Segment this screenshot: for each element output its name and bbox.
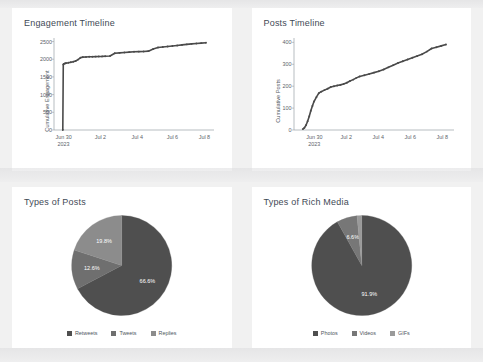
- legend-swatch-icon: [313, 331, 318, 336]
- legend-swatch-icon: [111, 331, 116, 336]
- x-tick-sublabel: 2023: [56, 141, 72, 148]
- legend-item[interactable]: Retweets: [67, 330, 97, 336]
- pie-slice-label: 91.9%: [361, 291, 377, 297]
- x-axis-ticks-posts: Jun 302023Jul 2Jul 4Jul 6Jul 8: [252, 130, 472, 152]
- analytics-dashboard: Engagement Timeline Cumulative Engagemen…: [0, 0, 483, 362]
- pie-area-types-of-posts: 66.6%12.6%19.8%: [12, 207, 232, 324]
- x-tick: Jul 4: [131, 134, 142, 141]
- x-tick: Jun 302023: [56, 134, 72, 148]
- legend-swatch-icon: [352, 331, 357, 336]
- legend-item[interactable]: Tweets: [111, 330, 136, 336]
- x-tick-sublabel: 2023: [306, 141, 322, 148]
- x-tick-label: Jul 2: [341, 134, 352, 141]
- legend-types-of-posts: RetweetsTweetsReplies: [12, 330, 232, 336]
- x-tick-label: Jul 4: [373, 134, 384, 141]
- legend-item[interactable]: Videos: [352, 330, 376, 336]
- chart-title-engagement: Engagement Timeline: [24, 18, 115, 28]
- pie-slice-label: 19.8%: [96, 238, 112, 244]
- pie-slice-label: 66.6%: [140, 278, 156, 284]
- legend-label: Retweets: [75, 330, 97, 336]
- legend-item[interactable]: Replies: [151, 330, 177, 336]
- x-tick: Jun 302023: [306, 134, 322, 148]
- chart-title-posts: Posts Timeline: [264, 18, 325, 28]
- plot-area-posts: Cumulative Posts 400 300 200 100 0 Jun 3…: [252, 30, 472, 171]
- x-tick-label: Jul 6: [167, 134, 178, 141]
- x-tick: Jul 6: [167, 134, 178, 141]
- legend-label: Tweets: [119, 330, 136, 336]
- background-band: [0, 0, 483, 8]
- x-tick-label: Jun 30: [56, 134, 72, 141]
- pie-area-types-of-rich-media: 91.9%6.6%1.52%: [252, 207, 472, 324]
- x-tick: Jul 4: [373, 134, 384, 141]
- legend-item[interactable]: Photos: [313, 330, 338, 336]
- x-axis-ticks-engagement: Jun 302023Jul 2Jul 4Jul 6Jul 8: [12, 130, 232, 152]
- panel-engagement-timeline: Engagement Timeline Cumulative Engagemen…: [12, 8, 232, 171]
- chart-title-types-of-posts: Types of Posts: [24, 197, 86, 207]
- x-tick: Jul 2: [95, 134, 106, 141]
- legend-label: GIFs: [398, 330, 410, 336]
- x-tick-label: Jun 30: [306, 134, 322, 141]
- panel-posts-timeline: Posts Timeline Cumulative Posts 400 300 …: [252, 8, 472, 171]
- legend-item[interactable]: GIFs: [390, 330, 410, 336]
- chart-title-types-of-rich-media: Types of Rich Media: [264, 197, 349, 207]
- x-tick-label: Jul 8: [437, 134, 448, 141]
- x-tick-label: Jul 4: [131, 134, 142, 141]
- pie-chart-types-of-rich-media: 91.9%6.6%1.52%: [252, 207, 472, 324]
- legend-label: Photos: [321, 330, 338, 336]
- x-tick-label: Jul 8: [199, 134, 210, 141]
- x-tick-label: Jul 6: [405, 134, 416, 141]
- pie-slice-label: 6.6%: [346, 234, 359, 240]
- legend-types-of-rich-media: PhotosVideosGIFs: [252, 330, 472, 336]
- x-tick: Jul 8: [199, 134, 210, 141]
- x-tick-label: Jul 2: [95, 134, 106, 141]
- x-tick: Jul 6: [405, 134, 416, 141]
- legend-label: Replies: [159, 330, 177, 336]
- legend-label: Videos: [360, 330, 376, 336]
- legend-swatch-icon: [390, 331, 395, 336]
- panel-types-of-posts: Types of Posts 66.6%12.6%19.8% RetweetsT…: [12, 187, 232, 348]
- x-tick: Jul 2: [341, 134, 352, 141]
- legend-swatch-icon: [67, 331, 72, 336]
- panel-types-of-rich-media: Types of Rich Media 91.9%6.6%1.52% Photo…: [252, 187, 472, 348]
- legend-swatch-icon: [151, 331, 156, 336]
- x-tick: Jul 8: [437, 134, 448, 141]
- plot-area-engagement: Cumulative Engagement 2500 2000 1500 100…: [12, 30, 232, 171]
- pie-chart-types-of-posts: 66.6%12.6%19.8%: [12, 207, 232, 324]
- pie-slice-label: 12.6%: [84, 265, 100, 271]
- background-band: [0, 348, 483, 362]
